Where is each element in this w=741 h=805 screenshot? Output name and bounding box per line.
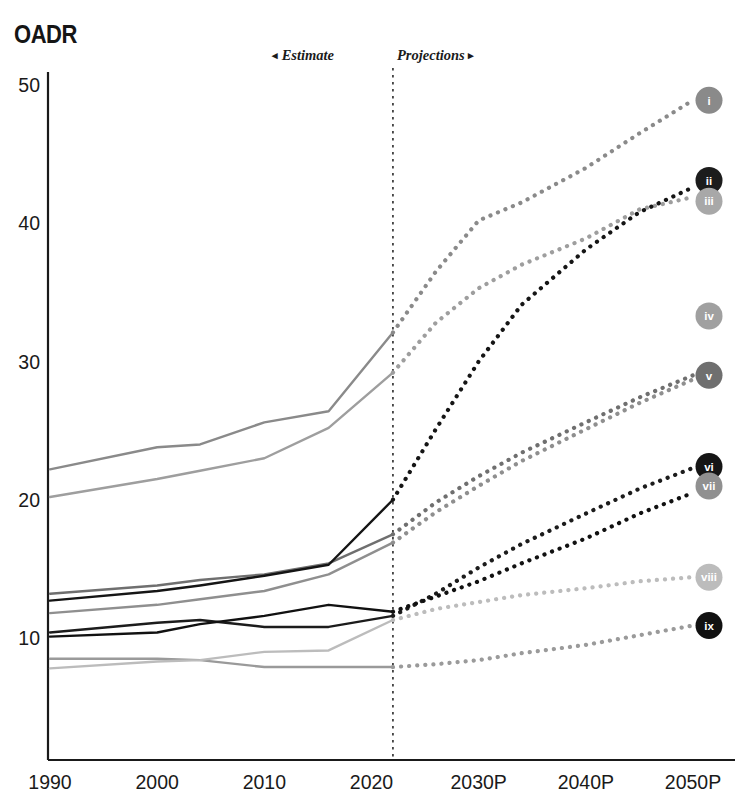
marker-label-ix: ix: [704, 620, 714, 632]
y-axis-tick-20: 20: [18, 489, 40, 511]
projections-phase-label: Projections ▸: [397, 47, 474, 64]
chart-container: OADR ◂ Estimate Projections ▸ 1020304050…: [0, 0, 741, 805]
series-projection-iii: [393, 197, 693, 373]
x-axis-tick-1990: 1990: [28, 771, 72, 793]
page-title: OADR: [14, 20, 77, 49]
y-axis-tick-50: 50: [18, 74, 40, 96]
marker-label-vii: vii: [703, 480, 716, 492]
series-history-iii: [50, 373, 393, 497]
chart-axes: [48, 72, 735, 760]
series-marker-v[interactable]: v: [696, 362, 723, 389]
projections-arrow-icon: ▸: [468, 49, 474, 61]
marker-label-i: i: [707, 95, 710, 107]
x-axis-tick-2040P: 2040P: [558, 771, 614, 793]
line-chart-svg: 1020304050 19902000201020202030P2040P205…: [0, 0, 741, 805]
x-axis-tick-2030P: 2030P: [450, 771, 506, 793]
estimate-label-text: Estimate: [282, 47, 334, 63]
series-projection-i: [393, 100, 693, 332]
series-projection-iv: [393, 626, 693, 667]
y-axis-tick-labels: 1020304050: [18, 74, 40, 649]
marker-label-iv: iv: [704, 310, 714, 322]
series-history-i: [50, 332, 393, 469]
x-axis-tick-2000: 2000: [135, 771, 179, 793]
x-axis-tick-2020: 2020: [350, 771, 394, 793]
series-history-v: [50, 534, 393, 593]
x-axis-tick-labels: 19902000201020202030P2040P2050P: [28, 771, 721, 793]
marker-label-iii: iii: [704, 195, 714, 207]
series-marker-iv[interactable]: iv: [696, 302, 723, 329]
series-marker-ix[interactable]: ix: [696, 612, 723, 639]
series-marker-iii[interactable]: iii: [696, 188, 723, 215]
marker-label-ii: ii: [706, 175, 712, 187]
y-axis-tick-30: 30: [18, 351, 40, 373]
marker-label-viii: viii: [701, 571, 717, 583]
series-history-vi: [50, 500, 393, 601]
projection-lines: [393, 100, 693, 667]
series-marker-viii[interactable]: viii: [696, 564, 723, 591]
series-marker-vii[interactable]: vii: [696, 472, 723, 499]
series-end-markers: iiiiiiivvviviiviiiix: [696, 87, 723, 639]
marker-label-vi: vi: [704, 461, 714, 473]
projections-label-text: Projections: [397, 47, 465, 63]
y-axis-tick-10: 10: [18, 627, 40, 649]
series-history-ii: [50, 616, 393, 633]
x-axis-tick-2010: 2010: [243, 771, 287, 793]
x-axis-tick-2050P: 2050P: [665, 771, 721, 793]
series-projection-vi: [393, 187, 693, 499]
y-axis-tick-40: 40: [18, 212, 40, 234]
series-projection-viii: [393, 577, 693, 620]
marker-label-v: v: [706, 370, 713, 382]
history-lines: [50, 332, 393, 668]
series-projection-vii: [393, 379, 693, 542]
series-marker-i[interactable]: i: [696, 87, 723, 114]
estimate-phase-label: ◂ Estimate: [272, 47, 334, 64]
estimate-arrow-icon: ◂: [272, 49, 278, 61]
